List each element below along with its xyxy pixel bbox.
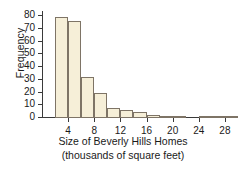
- y-axis-tick-label: 40: [24, 60, 35, 71]
- histogram-bar: [133, 112, 146, 118]
- y-axis-tick-label: 70: [24, 22, 35, 33]
- y-axis-tick: 80: [38, 15, 42, 16]
- y-axis-tick-label: 0: [29, 111, 35, 122]
- histogram-bar: [120, 110, 133, 118]
- histogram-bar: [107, 108, 120, 118]
- x-axis-tick: 12: [120, 118, 121, 122]
- y-axis-tick-label: 20: [24, 86, 35, 97]
- x-axis-tick: 20: [173, 118, 174, 122]
- y-axis-tick: 70: [38, 28, 42, 29]
- y-axis-tick-label: 80: [24, 9, 35, 20]
- histogram-bar: [160, 116, 173, 118]
- y-axis-tick-label: 10: [24, 98, 35, 109]
- x-axis-tick: 28: [225, 118, 226, 122]
- y-axis-tick-label: 50: [24, 47, 35, 58]
- x-axis-tick: 16: [147, 118, 148, 122]
- x-axis-title-line-2: (thousands of square feet): [0, 148, 246, 162]
- histogram-bar: [68, 21, 81, 118]
- histogram-bar: [173, 116, 186, 118]
- histogram-bar: [81, 77, 94, 118]
- x-axis-title-line-1: Size of Beverly Hills Homes: [0, 134, 246, 148]
- y-axis-tick-label: 30: [24, 73, 35, 84]
- histogram-bar: [199, 116, 212, 118]
- y-axis-line: [42, 11, 43, 118]
- x-axis-tick: 24: [199, 118, 200, 122]
- x-axis-tick: 8: [94, 118, 95, 122]
- histogram-bar: [225, 116, 238, 118]
- x-axis-caption: Size of Beverly Hills Homes (thousands o…: [0, 134, 246, 162]
- histogram-bar: [94, 93, 107, 118]
- y-axis-tick: 50: [38, 53, 42, 54]
- y-axis-tick: 10: [38, 104, 42, 105]
- y-axis-tick-label: 60: [24, 35, 35, 46]
- y-axis-tick: 60: [38, 41, 42, 42]
- y-axis-tick: 20: [38, 92, 42, 93]
- histogram-bar: [212, 116, 225, 118]
- y-axis-tick: 40: [38, 66, 42, 67]
- histogram-bar: [147, 115, 160, 118]
- y-axis-tick: 0: [38, 117, 42, 118]
- y-axis-tick: 30: [38, 79, 42, 80]
- histogram-bar: [55, 17, 68, 118]
- x-axis-tick: 4: [68, 118, 69, 122]
- plot-area: 01020304050607080 481216202428: [42, 11, 238, 118]
- histogram-figure: Frequency 01020304050607080 481216202428…: [0, 0, 246, 174]
